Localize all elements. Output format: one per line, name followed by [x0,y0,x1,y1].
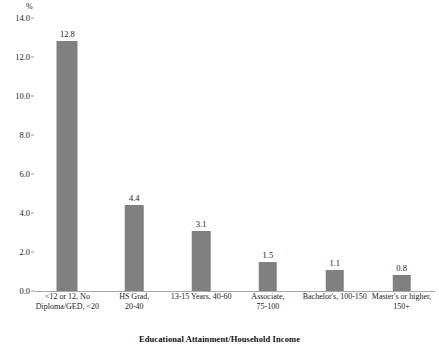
x-axis-tick-label-line: 20-40 [119,302,149,312]
x-axis-title: Educational Attainment/Household Income [0,334,439,344]
x-axis-tick-label-line: 13-15 Years, 40-60 [171,292,232,302]
bar-value-label: 1.1 [329,258,340,268]
bar-value-label: 1.5 [263,250,274,260]
bar[interactable] [125,205,144,291]
y-axis-tick-label: 12.0 [15,53,30,62]
x-axis-tick-label-line: 150+ [372,302,432,312]
bar-value-label: 12.8 [60,29,75,39]
bar-group: 12.8 [34,18,101,291]
y-axis: 0.02.04.06.08.010.012.014.0 [0,0,34,350]
bar-group: 1.1 [301,18,368,291]
x-axis-tick-label: 13-15 Years, 40-60 [171,292,232,302]
bar[interactable] [392,275,411,291]
y-axis-tick-label: 6.0 [19,170,30,179]
x-axis-tick-label-line: Bachelor's, 100-150 [303,292,367,302]
x-axis-tick-label-line: Master's or higher, [372,292,432,302]
y-axis-tick-label: 14.0 [15,14,30,23]
x-axis-tick-label: Associate,75-100 [251,292,284,311]
bar[interactable] [192,231,211,291]
y-axis-tick-label: 4.0 [19,209,30,218]
x-axis-tick-label-line: 75-100 [251,302,284,312]
bars-layer: 12.84.43.11.51.10.8 [34,18,435,291]
bar[interactable] [325,270,344,291]
x-axis-tick-label: Bachelor's, 100-150 [303,292,367,302]
bar[interactable] [57,41,78,291]
x-axis-tick-label-line: Associate, [251,292,284,302]
y-axis-tick-label: 0.0 [19,287,30,296]
bar-group: 1.5 [235,18,302,291]
y-axis-tick-label: 8.0 [19,131,30,140]
x-axis-tick-label-line: Diploma/GED, <20 [36,302,99,312]
x-axis-tick-label: Master's or higher,150+ [372,292,432,311]
bar-group: 0.8 [368,18,435,291]
bar-group: 4.4 [101,18,168,291]
x-axis-tick-label: HS Grad,20-40 [119,292,149,311]
y-axis-tick-label: 2.0 [19,248,30,257]
bar-value-label: 0.8 [396,263,407,273]
y-axis-tick-label: 10.0 [15,92,30,101]
bar-value-label: 3.1 [196,219,207,229]
bar-chart: % 0.02.04.06.08.010.012.014.0 12.84.43.1… [0,0,439,350]
x-axis-tick-label: <12 or 12, NoDiploma/GED, <20 [36,292,99,311]
x-axis-tick-label-line: HS Grad, [119,292,149,302]
x-axis-tick-labels: <12 or 12, NoDiploma/GED, <20HS Grad,20-… [34,292,435,320]
bar-group: 3.1 [168,18,235,291]
bar-value-label: 4.4 [129,193,140,203]
x-axis-tick-label-line: <12 or 12, No [36,292,99,302]
plot-area: 12.84.43.11.51.10.8 [34,18,435,292]
bar[interactable] [259,262,278,291]
